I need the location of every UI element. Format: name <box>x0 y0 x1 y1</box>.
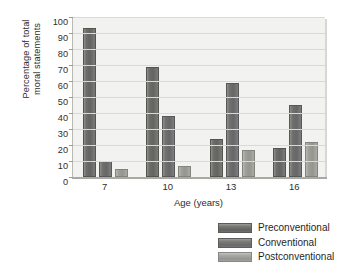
grid-line <box>73 17 325 18</box>
x-axis-tick-label: 16 <box>289 181 300 193</box>
grid-line <box>73 33 325 34</box>
y-axis-tick-mark <box>69 33 73 34</box>
y-axis-tick-mark <box>69 97 73 98</box>
y-axis-tick-mark <box>69 161 73 162</box>
y-axis-tick-mark <box>69 113 73 114</box>
y-axis-tick-label: 90 <box>46 33 68 43</box>
legend-item: Postconventional <box>218 250 340 265</box>
y-axis-title-line-2: moral statements <box>32 23 44 95</box>
bar <box>242 150 255 177</box>
grid-line <box>73 81 325 82</box>
x-axis-tick-labels: 7101316 <box>72 181 325 195</box>
grid-line <box>73 161 325 162</box>
y-axis-tick-labels: 0102030405060708090100 <box>46 11 68 183</box>
y-axis-tick-mark <box>69 49 73 50</box>
y-axis-tick-label: 0 <box>46 177 68 187</box>
legend-swatch-icon <box>218 252 252 262</box>
legend-swatch-icon <box>218 238 252 248</box>
y-axis-tick-label: 80 <box>46 49 68 59</box>
legend-item: Preconventional <box>218 221 340 236</box>
bar <box>273 148 286 177</box>
y-axis-tick-label: 40 <box>46 113 68 123</box>
grid-line <box>73 49 325 50</box>
bar <box>178 166 191 177</box>
y-axis-tick-label: 30 <box>46 129 68 139</box>
y-axis-title: Percentage of total moral statements <box>19 0 45 139</box>
y-axis-tick-mark <box>69 65 73 66</box>
y-axis-tick-label: 20 <box>46 145 68 155</box>
y-axis-tick-label: 50 <box>46 97 68 107</box>
chart-legend: PreconventionalConventionalPostconventio… <box>218 221 340 265</box>
y-axis-tick-label: 70 <box>46 65 68 75</box>
legend-item-label: Preconventional <box>258 222 330 234</box>
y-axis-tick-label: 100 <box>46 17 68 27</box>
y-axis-tick-mark <box>69 81 73 82</box>
bar-chart-figure: Percentage of total moral statements 010… <box>0 0 340 275</box>
grid-line <box>73 145 325 146</box>
grid-line <box>73 129 325 130</box>
x-axis-tick-label: 10 <box>163 181 174 193</box>
y-axis-tick-label: 60 <box>46 81 68 91</box>
bar <box>99 161 112 177</box>
grid-line <box>73 65 325 66</box>
x-axis-tick-label: 13 <box>226 181 237 193</box>
y-axis-tick-label: 10 <box>46 161 68 171</box>
legend-item-label: Postconventional <box>258 251 334 263</box>
bar <box>162 116 175 177</box>
x-axis-line <box>72 177 327 179</box>
y-axis-tick-mark <box>69 129 73 130</box>
bar <box>83 28 96 177</box>
legend-item-label: Conventional <box>258 237 316 249</box>
grid-line <box>73 97 325 98</box>
bar <box>305 142 318 177</box>
x-axis-tick-label: 7 <box>102 181 107 193</box>
grid-line <box>73 113 325 114</box>
bar <box>289 105 302 177</box>
legend-swatch-icon <box>218 223 252 233</box>
x-axis-title: Age (years) <box>72 197 325 208</box>
y-axis-title-line-1: Percentage of total <box>21 19 33 98</box>
y-axis-tick-mark <box>69 145 73 146</box>
y-axis-tick-mark <box>69 17 73 18</box>
plot-area <box>72 17 325 177</box>
bar <box>115 169 128 177</box>
legend-item: Conventional <box>218 236 340 251</box>
